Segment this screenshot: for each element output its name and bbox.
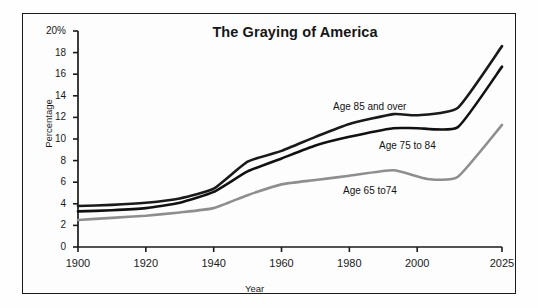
y-tick-label: 18 (32, 48, 66, 58)
x-tick-label: 1980 (324, 258, 374, 269)
series-paths (78, 46, 502, 220)
series-line-age-65-to74 (78, 125, 502, 220)
series-label-age-85-and-over: Age 85 and over (333, 101, 406, 112)
x-axis-title: Year (245, 283, 264, 294)
y-tick-label: 2 (32, 220, 66, 230)
y-tick-label: 12 (32, 112, 66, 122)
x-tick-label: 1940 (189, 258, 239, 269)
figure-canvas: The Graying of America Percentage Year 0… (0, 0, 538, 308)
y-tick-label: 6 (32, 177, 66, 187)
x-tick-label: 2025 (477, 258, 527, 269)
y-tick-label: 4 (32, 199, 66, 209)
y-tick-label: 14 (32, 91, 66, 101)
y-tick-label: 16 (32, 69, 66, 79)
x-tick-label: 1960 (257, 258, 307, 269)
series-label-age-65-to-74: Age 65 to74 (343, 185, 397, 196)
chart-title: The Graying of America (150, 24, 440, 40)
x-tick-label: 1900 (53, 258, 103, 269)
series-label-age-75-to-84: Age 75 to 84 (379, 140, 436, 151)
y-tick-label: 20% (32, 26, 66, 36)
x-tick-label: 2000 (392, 258, 442, 269)
series-line-age-75-to-84 (78, 67, 502, 212)
y-tick-label: 10 (32, 134, 66, 144)
y-tick-label: 0 (32, 242, 66, 252)
axis-group (73, 31, 502, 252)
x-tick-label: 1920 (121, 258, 171, 269)
y-tick-label: 8 (32, 156, 66, 166)
